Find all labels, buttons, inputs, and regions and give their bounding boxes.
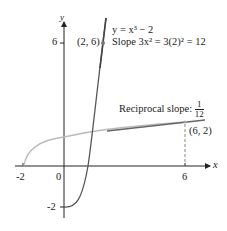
y-tick-neg2: -2: [47, 202, 56, 213]
reciprocal-fraction: 112: [195, 100, 204, 119]
point-2-6: [101, 41, 105, 45]
y-axis-label: y: [60, 13, 64, 22]
x-tick-0: 0: [56, 172, 61, 183]
point-a-label: (2, 6): [77, 37, 100, 48]
reciprocal-slope-label: Reciprocal slope: 112: [119, 100, 204, 119]
x-axis-label: x: [213, 160, 218, 171]
curve-label: y = x³ − 2: [112, 25, 153, 36]
y-tick-6: 6: [52, 37, 57, 48]
slope-label: Slope 3x² = 3(2)² = 12: [112, 37, 206, 48]
fraction-denominator: 12: [195, 110, 204, 119]
x-tick-6: 6: [182, 172, 187, 183]
x-tick-neg2: -2: [16, 172, 25, 183]
point-b-label: (6, 2): [189, 126, 212, 137]
reciprocal-text: Reciprocal slope:: [119, 103, 192, 114]
point-6-2: [183, 120, 186, 123]
inverse-curve: [24, 122, 185, 166]
